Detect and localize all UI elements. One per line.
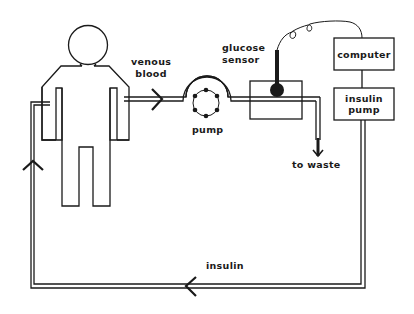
- label-venous: venous: [131, 56, 171, 68]
- label-venous-blood: venous blood: [131, 56, 171, 80]
- chevron-right-icon: [152, 89, 162, 110]
- label-insulin-pump-line2: pump: [348, 104, 379, 115]
- pump-rollers: [193, 88, 220, 119]
- pump: [181, 76, 250, 118]
- label-glucose: glucose: [222, 42, 265, 54]
- label-computer: computer: [334, 38, 394, 70]
- pump-rotor: [193, 90, 219, 116]
- label-glucose-sensor: glucose sensor: [222, 42, 265, 66]
- body-outline: [42, 64, 129, 140]
- human-figure: [42, 26, 129, 207]
- label-to-waste: to waste: [292, 159, 341, 171]
- waste-line: [313, 97, 323, 156]
- chevron-up-icon: [23, 161, 43, 170]
- label-blood: blood: [131, 68, 171, 80]
- label-sensor: sensor: [222, 54, 265, 66]
- venous-blood-line: [124, 89, 181, 110]
- label-pump: pump: [192, 124, 223, 136]
- head: [69, 26, 108, 65]
- torso-legs: [62, 88, 110, 206]
- label-insulin: insulin: [206, 260, 244, 272]
- label-insulin-pump: insulin pump: [334, 88, 394, 120]
- chevron-left-icon: [186, 277, 196, 296]
- label-insulin-pump-line1: insulin: [345, 93, 383, 104]
